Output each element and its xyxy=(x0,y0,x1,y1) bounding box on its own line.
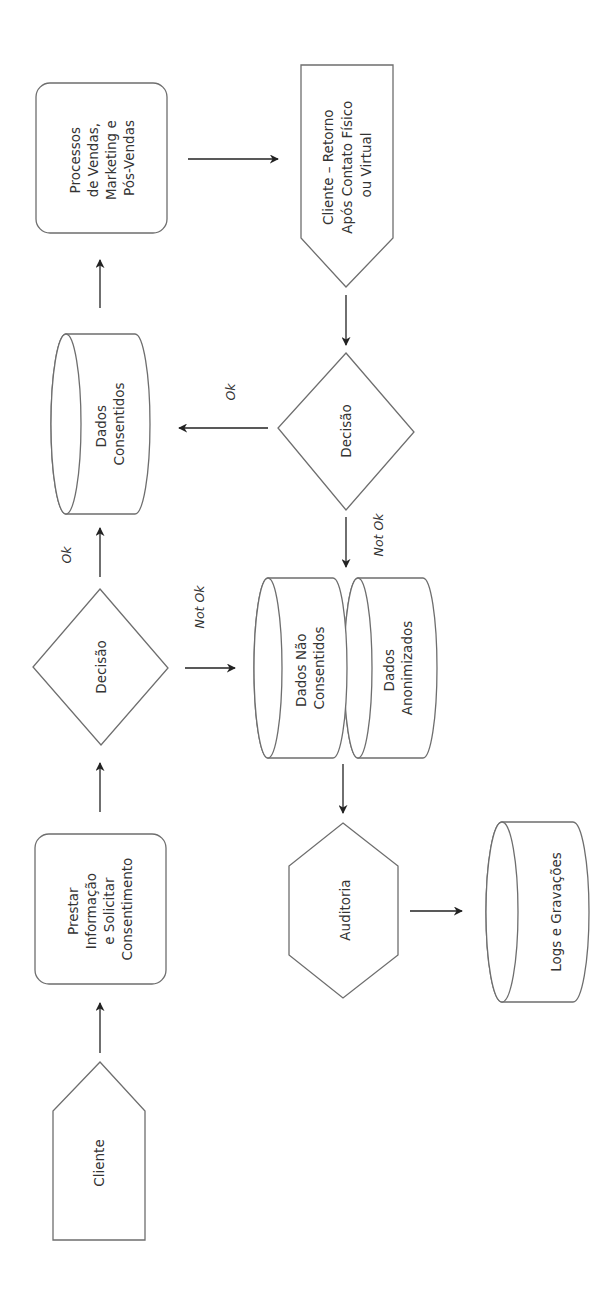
node-label: Logs e Gravações xyxy=(548,852,564,972)
node-dados-nao-consentidos: Dados Não Consentidos xyxy=(254,578,347,758)
cylinder-cap-shape xyxy=(344,578,372,758)
rounded-rect-shape xyxy=(36,83,167,233)
node-dados-consentidos: Dados Consentidos xyxy=(51,334,150,514)
edge-label-not-ok-decisao1: Not Ok xyxy=(192,585,207,629)
node-label: Decisão xyxy=(93,640,109,693)
edge-label-not-ok-decisao2: Not Ok xyxy=(371,513,386,557)
edge-label-ok-decisao1: Ok xyxy=(59,546,74,564)
node-decisao-1: Decisão xyxy=(33,589,168,745)
flowchart-canvas: Ok Not Ok Ok Not Ok Cliente Prestar Info… xyxy=(0,0,609,1297)
cylinder-cap-shape xyxy=(254,578,282,758)
node-label: Decisão xyxy=(338,404,354,457)
cylinder-cap-shape xyxy=(51,334,81,514)
node-cliente: Cliente xyxy=(53,1062,145,1240)
edge-label-ok-decisao2: Ok xyxy=(223,383,238,401)
node-label: Auditoria xyxy=(337,879,353,940)
node-auditoria: Auditoria xyxy=(289,823,398,998)
node-logs-gravacoes: Logs e Gravações xyxy=(486,822,589,1002)
node-label: Cliente xyxy=(91,1139,107,1186)
node-processos-vendas: Processos de Vendas, Marketing e Pós-Ven… xyxy=(36,83,167,233)
node-dados-anonimizados: Dados Anonimizados xyxy=(344,578,437,758)
node-decisao-2: Decisão xyxy=(278,353,414,510)
node-prestar-informacao: Prestar Informação e Solicitar Consentim… xyxy=(35,834,166,984)
node-cliente-retorno: Cliente – Retorno Após Contato Físico ou… xyxy=(301,65,393,287)
cylinder-cap-shape xyxy=(486,822,518,1002)
